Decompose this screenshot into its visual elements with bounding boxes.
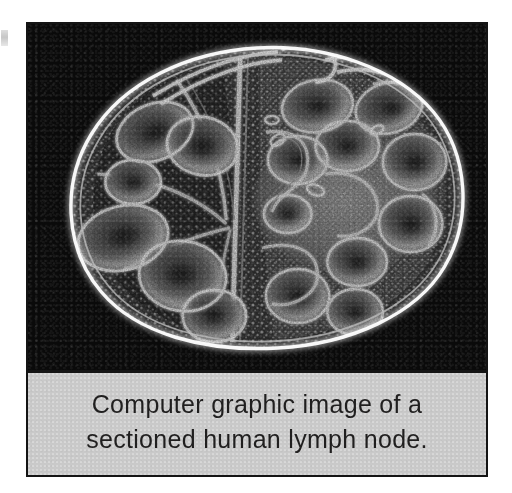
scan-artifact-speck <box>1 30 8 46</box>
figure-frame: Computer graphic image of a sectioned hu… <box>26 22 488 477</box>
lymph-node-image-plate <box>28 24 486 370</box>
caption-line-2: sectioned human lymph node. <box>86 423 428 456</box>
lymph-node-graphic <box>28 24 486 370</box>
figure-caption: Computer graphic image of a sectioned hu… <box>28 370 486 475</box>
caption-line-1: Computer graphic image of a <box>92 388 423 421</box>
